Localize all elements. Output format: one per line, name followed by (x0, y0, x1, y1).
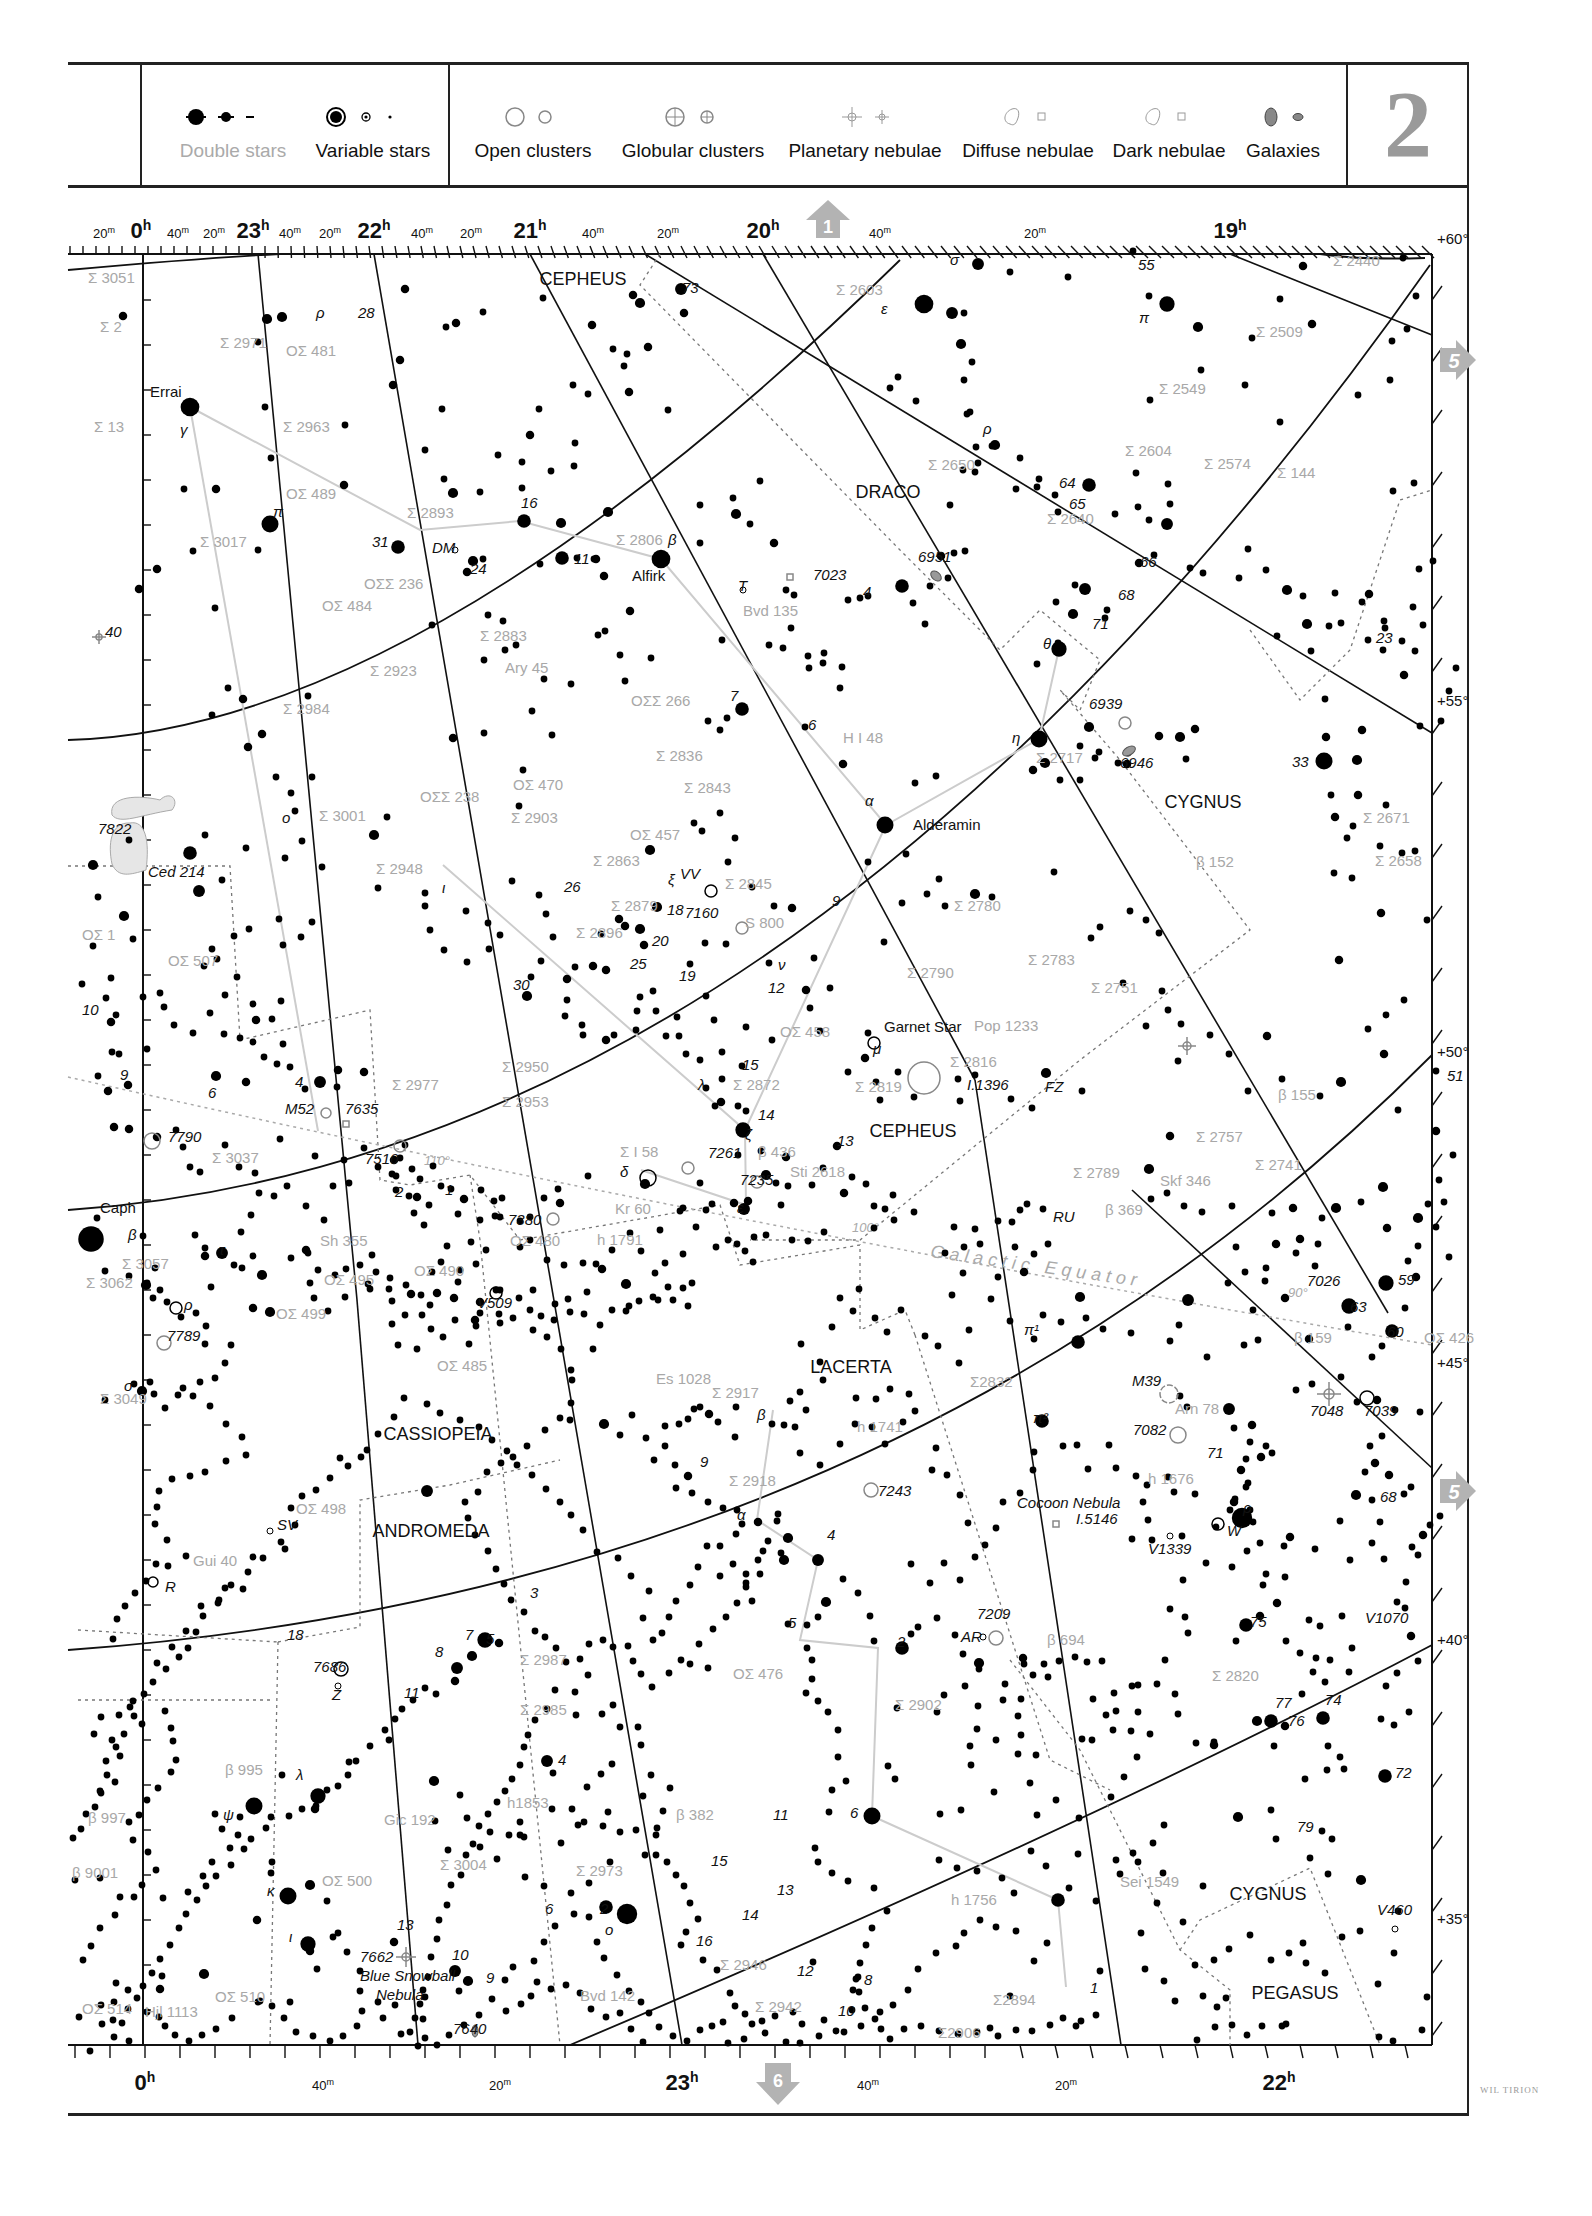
star (443, 324, 450, 331)
star (555, 1186, 562, 1193)
star (1200, 570, 1207, 577)
star (680, 1285, 687, 1292)
star (95, 894, 102, 901)
star (1244, 2032, 1251, 2039)
star (1365, 590, 1374, 599)
star (207, 1403, 214, 1410)
star (610, 1702, 617, 1709)
star (804, 1645, 811, 1652)
star-label: α (865, 792, 874, 809)
star (1175, 1711, 1182, 1718)
constellation-name: LACERTA (810, 1357, 891, 1377)
star (199, 1969, 209, 1979)
star (1326, 623, 1333, 630)
star (898, 1307, 905, 1314)
star (497, 932, 504, 939)
star (110, 1123, 119, 1132)
star (735, 702, 749, 716)
star (117, 1753, 124, 1760)
double-star-label: Σ 2650 (928, 456, 975, 473)
star (354, 2023, 361, 2030)
star (165, 1563, 172, 1570)
star (484, 1469, 491, 1476)
star (621, 1279, 631, 1289)
star (680, 309, 689, 318)
star (550, 934, 557, 941)
star (680, 1251, 687, 1258)
ra-hour-label: 22h (357, 217, 390, 243)
star (240, 1586, 247, 1593)
star (541, 1883, 548, 1890)
star-label: 10 (452, 1946, 469, 1963)
star (162, 1405, 169, 1412)
star-label: 7039 (1364, 1402, 1398, 1419)
nav-arrow-up[interactable]: 1 (806, 200, 850, 238)
star (1000, 1499, 1007, 1506)
star (890, 1192, 897, 1199)
star (193, 1629, 200, 1636)
star-label: 1 (1090, 1979, 1098, 1996)
star (153, 1867, 160, 1874)
nav-arrow-right-lower[interactable]: 5 (1440, 1471, 1476, 1511)
double-star-label: ΟΣ 1 (82, 926, 115, 943)
star (299, 838, 306, 845)
star (1034, 1812, 1041, 1819)
star (1273, 1836, 1280, 1843)
star (358, 1454, 365, 1461)
star-label: 4 (558, 1751, 566, 1768)
double-star-label: Σ 2942 (755, 1998, 802, 2015)
star (212, 605, 219, 612)
star (899, 900, 906, 907)
star (529, 1472, 536, 1479)
star (1172, 1691, 1179, 1698)
star (783, 2039, 790, 2046)
star (659, 556, 666, 563)
star (1031, 1449, 1038, 1456)
star (478, 1187, 485, 1194)
star (1029, 1105, 1036, 1112)
star (723, 1614, 730, 1621)
star (1289, 1204, 1298, 1213)
double-star-label: Σ 2843 (684, 779, 731, 796)
star (1383, 1224, 1392, 1233)
constellation-name: DRACO (855, 482, 920, 502)
double-star-label: Σ 2903 (511, 809, 558, 826)
star (564, 997, 571, 1004)
star (972, 258, 984, 270)
double-star-label: Sei 1549 (1120, 1873, 1179, 1890)
star (1425, 1201, 1432, 1208)
double-star-label: Σ 2963 (283, 418, 330, 435)
star (1144, 1164, 1154, 1174)
star (867, 1613, 874, 1620)
star (568, 1512, 575, 1519)
star-label: 7026 (1307, 1272, 1341, 1289)
star (421, 1222, 428, 1229)
star-name: Alderamin (913, 816, 981, 833)
star (262, 404, 269, 411)
open-cluster-icon (1119, 717, 1131, 729)
star (1241, 1342, 1248, 1349)
star (635, 1724, 642, 1731)
star (651, 1457, 658, 1464)
star (1400, 671, 1409, 680)
star (572, 964, 579, 971)
star (1027, 1780, 1034, 1787)
star (1030, 1672, 1037, 1679)
nav-arrow-down[interactable]: 6 (756, 2063, 800, 2105)
star (961, 310, 968, 317)
star (1192, 1491, 1199, 1498)
star (1312, 1546, 1319, 1553)
star (1299, 1691, 1306, 1698)
ra-minute-label: 40m (312, 2077, 334, 2093)
star (1167, 501, 1174, 508)
nav-arrow-right-upper[interactable]: 5 (1440, 340, 1476, 380)
star (492, 1213, 499, 1220)
star (126, 1819, 133, 1826)
star (1029, 766, 1038, 775)
double-star-label: Bvd 135 (743, 602, 798, 619)
star (1192, 1962, 1199, 1969)
star (1135, 1682, 1142, 1689)
star-label: π (273, 503, 284, 520)
star (933, 773, 940, 780)
star-label: SV (277, 1516, 299, 1533)
